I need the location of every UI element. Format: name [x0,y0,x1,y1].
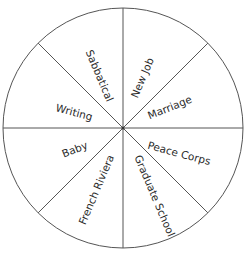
segment-label-french-riviera: French Riviera [76,153,116,227]
segment-label-peace-corps: Peace Corps [146,139,212,167]
segment-label-sabbatical: Sabbatical [84,48,117,103]
segment-labels: New Job Marriage Peace Corps Graduate Sc… [55,48,212,238]
segment-label-baby: Baby [60,139,89,160]
segment-label-graduate-school: Graduate School [132,153,177,238]
segment-label-marriage: Marriage [146,93,194,122]
segment-label-writing: Writing [55,101,94,122]
center-dot [122,127,125,130]
segment-label-new-job: New Job [128,55,156,99]
life-wheel-diagram: New Job Marriage Peace Corps Graduate Sc… [0,0,248,263]
